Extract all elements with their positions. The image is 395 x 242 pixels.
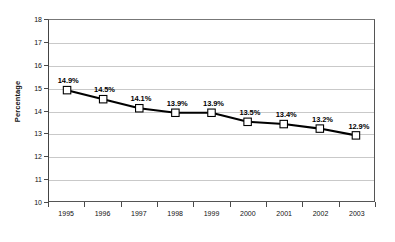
x-axis-tick-mark xyxy=(48,202,49,207)
data-point-marker xyxy=(244,118,251,125)
x-axis-tick-label: 2000 xyxy=(240,210,256,217)
x-axis-tick-mark xyxy=(230,202,231,207)
data-point-marker xyxy=(208,109,215,116)
y-axis-tick-label: 13 xyxy=(34,130,42,137)
x-axis-tick-mark xyxy=(84,202,85,207)
x-axis-tick-label: 1996 xyxy=(95,210,111,217)
y-axis-tick-label: 18 xyxy=(34,16,42,23)
x-axis-tick-mark xyxy=(121,202,122,207)
data-point-label: 14.5% xyxy=(94,85,115,94)
x-axis-tick-label: 1999 xyxy=(204,210,220,217)
data-point-label: 14.1% xyxy=(130,94,151,103)
x-axis-tick-label: 1995 xyxy=(58,210,74,217)
x-axis-tick-label: 1998 xyxy=(167,210,183,217)
data-point-marker xyxy=(136,105,143,112)
line-chart: Percentage 101112131415161718 14.9%14.5%… xyxy=(0,0,395,242)
y-axis-tick-mark xyxy=(44,202,48,203)
y-axis-tick-label: 11 xyxy=(35,176,42,183)
y-axis-tick-label: 12 xyxy=(34,153,42,160)
y-axis-tick-labels: 101112131415161718 xyxy=(24,19,42,202)
y-axis-tick-mark xyxy=(44,156,48,157)
y-axis-tick-label: 16 xyxy=(34,61,42,68)
plot-area: 14.9%14.5%14.1%13.9%13.9%13.5%13.4%13.2%… xyxy=(48,19,375,202)
data-point-label: 13.2% xyxy=(312,115,333,124)
x-axis-tick-mark xyxy=(193,202,194,207)
x-axis-tick-mark xyxy=(157,202,158,207)
data-point-marker xyxy=(172,109,179,116)
data-point-marker xyxy=(63,86,70,93)
x-axis-tick-label: 2001 xyxy=(276,210,292,217)
x-axis-tick-mark xyxy=(375,202,376,207)
y-axis-tick-label: 14 xyxy=(34,107,42,114)
y-axis-tick-mark xyxy=(44,133,48,134)
y-axis-tick-label: 10 xyxy=(34,199,42,206)
y-axis-tick-label: 15 xyxy=(34,84,42,91)
y-axis-tick-mark xyxy=(44,19,48,20)
y-axis-tick-label: 17 xyxy=(34,38,42,45)
data-point-marker xyxy=(99,95,106,102)
data-point-label: 12.9% xyxy=(348,122,369,131)
series-line-and-markers xyxy=(49,20,374,201)
y-axis-tick-mark xyxy=(44,111,48,112)
data-point-label: 13.5% xyxy=(239,108,260,117)
data-point-label: 13.9% xyxy=(203,99,224,108)
data-point-marker xyxy=(280,120,287,127)
x-axis-tick-mark xyxy=(266,202,267,207)
y-axis-tick-mark xyxy=(44,42,48,43)
x-axis-tick-mark xyxy=(302,202,303,207)
y-axis-tick-mark xyxy=(44,65,48,66)
data-point-label: 13.4% xyxy=(276,110,297,119)
y-axis-tick-mark xyxy=(44,179,48,180)
x-axis-tick-label: 2002 xyxy=(313,210,329,217)
x-axis-tick-label: 1997 xyxy=(131,210,147,217)
data-point-marker xyxy=(316,125,323,132)
data-point-label: 13.9% xyxy=(167,99,188,108)
y-axis-title-text: Percentage xyxy=(14,80,23,121)
x-axis-tick-label: 2003 xyxy=(349,210,365,217)
x-axis-tick-labels: 199519961997199819992000200120022003 xyxy=(48,210,375,224)
data-point-label: 14.9% xyxy=(58,76,79,85)
x-axis-tick-mark xyxy=(339,202,340,207)
y-axis-tick-mark xyxy=(44,88,48,89)
data-point-marker xyxy=(352,132,359,139)
